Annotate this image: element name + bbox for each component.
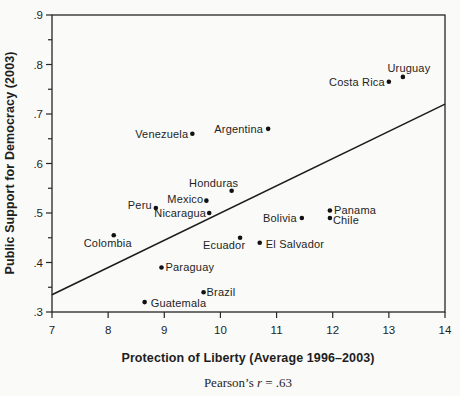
data-point-guatemala <box>142 300 147 305</box>
x-tick-label: 8 <box>105 324 111 336</box>
y-tick-label: .7 <box>33 108 43 120</box>
data-point-honduras <box>229 188 234 193</box>
point-label-chile: Chile <box>333 214 359 226</box>
data-point-costa-rica <box>387 80 392 85</box>
point-label-honduras: Honduras <box>189 177 239 189</box>
caption-suffix: = .63 <box>262 375 292 390</box>
x-tick-label: 11 <box>271 324 283 336</box>
data-point-brazil <box>201 290 206 295</box>
x-axis-title: Protection of Liberty (Average 1996–2003… <box>121 351 374 365</box>
point-label-costa-rica: Costa Rica <box>329 76 385 88</box>
data-point-mexico <box>204 198 209 203</box>
x-tick-label: 14 <box>439 324 452 336</box>
point-label-peru: Peru <box>128 199 152 211</box>
y-tick-label: .9 <box>33 9 43 21</box>
data-point-nicaragua <box>207 211 212 216</box>
scatter-chart: 7891011121314.3.4.5.6.7.8.9 VenezuelaArg… <box>0 0 460 396</box>
data-point-paraguay <box>159 265 164 270</box>
point-label-brazil: Brazil <box>207 286 236 298</box>
x-tick-label: 10 <box>214 324 227 336</box>
point-label-uruguay: Uruguay <box>387 62 430 74</box>
x-tick-label: 12 <box>326 324 339 336</box>
point-label-bolivia: Bolivia <box>263 212 297 224</box>
point-label-ecuador: Ecuador <box>203 239 246 251</box>
data-point-chile <box>328 216 333 221</box>
data-point-bolivia <box>300 216 305 221</box>
point-label-nicaragua: Nicaragua <box>154 207 207 219</box>
data-point-venezuela <box>190 132 195 137</box>
point-label-venezuela: Venezuela <box>135 128 189 140</box>
caption-prefix: Pearson’s <box>204 375 257 390</box>
y-tick-label: .3 <box>33 306 43 318</box>
figure: 7891011121314.3.4.5.6.7.8.9 VenezuelaArg… <box>0 0 460 396</box>
point-label-mexico: Mexico <box>167 193 203 205</box>
y-tick-label: .6 <box>33 158 43 170</box>
point-label-guatemala: Guatemala <box>151 297 207 309</box>
y-tick-label: .5 <box>33 207 43 219</box>
x-tick-label: 7 <box>49 324 55 336</box>
y-tick-label: .8 <box>33 59 43 71</box>
point-label-argentina: Argentina <box>214 123 264 135</box>
point-label-colombia: Colombia <box>84 237 133 249</box>
point-label-el-salvador: El Salvador <box>266 238 325 250</box>
data-points-layer: VenezuelaArgentinaCosta RicaUruguayHondu… <box>84 62 431 309</box>
data-point-el-salvador <box>257 240 262 245</box>
data-point-argentina <box>266 127 271 132</box>
plot-frame <box>52 15 445 312</box>
data-point-panama <box>328 208 333 213</box>
y-tick-label: .4 <box>33 257 43 269</box>
point-label-paraguay: Paraguay <box>165 261 214 273</box>
x-tick-label: 13 <box>382 324 395 336</box>
axis-ticks: 7891011121314.3.4.5.6.7.8.9 <box>33 9 452 336</box>
x-tick-label: 9 <box>161 324 167 336</box>
caption: Pearson’s r = .63 <box>204 375 292 390</box>
y-axis-title: Public Support for Democracy (2003) <box>3 51 17 274</box>
data-point-uruguay <box>401 75 406 80</box>
